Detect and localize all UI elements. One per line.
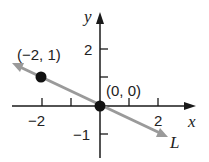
point-b-label: (0, 0) xyxy=(106,82,141,99)
x-tick-label-neg2: −2 xyxy=(28,112,45,129)
x-tick-label-2: 2 xyxy=(154,112,162,129)
x-axis-arrow-icon xyxy=(184,102,196,110)
point-origin xyxy=(95,101,106,112)
x-axis-label: x xyxy=(187,112,196,131)
y-axis-label: y xyxy=(82,7,92,26)
y-tick-label-neg1: −1 xyxy=(73,126,90,143)
y-tick-label-2: 2 xyxy=(84,41,92,58)
y-axis-arrow-icon xyxy=(96,12,104,24)
point-a-label: (−2, 1) xyxy=(17,46,61,63)
line-label: L xyxy=(169,133,179,152)
coordinate-plane: y x L (−2, 1) (0, 0) −2 2 2 −1 xyxy=(0,0,209,162)
point-neg2-1 xyxy=(36,72,47,83)
